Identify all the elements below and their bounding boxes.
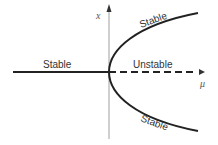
left-stable-label: Stable [43, 59, 72, 70]
horizontal-axis-label: μ [199, 78, 205, 89]
right-unstable-label: Unstable [133, 59, 173, 70]
lower-stable-label: Stable [139, 113, 170, 133]
horizontal-axis-arrow-icon [199, 69, 205, 75]
vertical-axis-arrow-icon [107, 4, 112, 12]
vertical-axis-label: x [95, 10, 101, 21]
bifurcation-diagram: x μ Stable Unstable Stable Stable [0, 0, 218, 145]
